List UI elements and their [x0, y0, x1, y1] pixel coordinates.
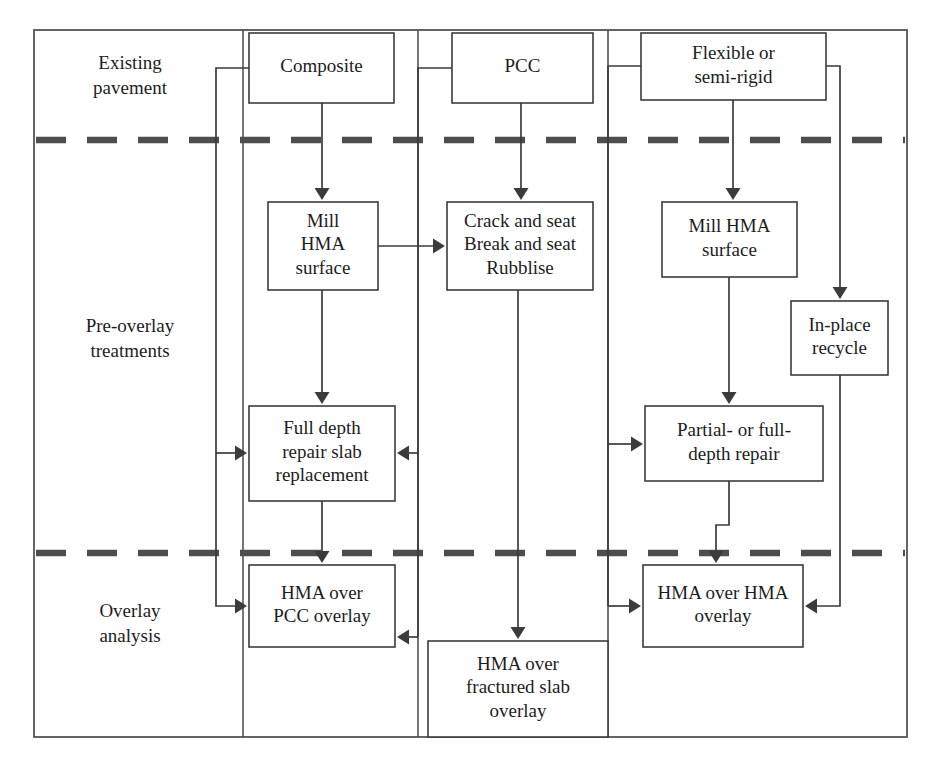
box-label-full-depth-repair-slab-replacement-line-0: Full depth — [283, 417, 361, 438]
connector-composite-branch-hmapcc — [216, 453, 243, 606]
process-box-mill-hma-surface-flexible[interactable]: Mill HMAsurface — [662, 202, 797, 277]
box-label-hma-over-hma-overlay-line-0: HMA over HMA — [658, 582, 789, 603]
box-label-partial-or-full-depth-repair-line-1: depth repair — [688, 443, 780, 464]
stage-label-pre-overlay-treatments-line-0: Pre-overlay — [86, 315, 175, 336]
arrowhead-fulldepth-to-hmapcc — [315, 551, 330, 563]
connector-flexible-left-down — [608, 66, 641, 606]
process-box-hma-over-hma-overlay[interactable]: HMA over HMAoverlay — [643, 565, 803, 647]
connector-partialrepair-to-hmahma — [716, 481, 729, 561]
stage-label-existing-pavement: Existingpavement — [93, 52, 168, 98]
process-box-mill-hma-surface-composite[interactable]: MillHMAsurface — [268, 202, 378, 290]
box-label-full-depth-repair-slab-replacement-line-1: repair slab — [282, 441, 362, 462]
box-label-crack-break-rubblise-line-1: Break and seat — [464, 233, 577, 254]
box-label-hma-over-hma-overlay-line-1: overlay — [695, 605, 752, 626]
arrowhead-composite-branch-hmapcc — [235, 599, 247, 614]
box-label-in-place-recycle-line-0: In-place — [808, 314, 870, 335]
box-label-flexible-or-semi-rigid-line-0: Flexible or — [692, 42, 776, 63]
arrowhead-composite-to-mill — [315, 188, 330, 200]
box-label-hma-over-fractured-slab-overlay-line-2: overlay — [490, 700, 547, 721]
process-box-full-depth-repair-slab-replacement[interactable]: Full depthrepair slabreplacement — [249, 406, 395, 501]
arrowhead-pcc-branch-hmapcc — [397, 630, 409, 645]
box-label-hma-over-fractured-slab-overlay-line-0: HMA over — [477, 653, 559, 674]
box-label-mill-hma-surface-flexible-line-1: surface — [702, 239, 757, 260]
box-label-pcc-line-0: PCC — [505, 55, 541, 76]
stage-label-overlay-analysis-line-0: Overlay — [99, 600, 161, 621]
process-box-hma-over-fractured-slab-overlay[interactable]: HMA overfractured slaboverlay — [428, 641, 608, 737]
arrowhead-pcc-branch-fulldepth — [397, 446, 409, 461]
arrowhead-partialrepair-to-hmahma — [709, 551, 724, 563]
box-label-composite-line-0: Composite — [280, 55, 362, 76]
box-label-full-depth-repair-slab-replacement-line-2: replacement — [276, 464, 370, 485]
flowchart-canvas: CompositePCCFlexible orsemi-rigidMillHMA… — [0, 0, 925, 770]
process-box-pcc[interactable]: PCC — [452, 33, 593, 103]
arrowhead-mill-flexible-to-partialrepair — [722, 392, 737, 404]
arrowhead-flexible-right-to-recycle — [833, 287, 848, 299]
connector-flexible-right-to-recycle — [826, 66, 840, 297]
stage-label-existing-pavement-line-1: pavement — [93, 77, 168, 98]
arrowhead-crackseat-to-fracturedslab — [511, 627, 526, 639]
arrowhead-pcc-to-crackseat — [514, 188, 529, 200]
box-label-crack-break-rubblise-line-0: Crack and seat — [464, 210, 577, 231]
box-label-flexible-or-semi-rigid-line-1: semi-rigid — [694, 66, 773, 87]
arrowhead-recycle-to-hmahma — [805, 599, 817, 614]
stage-label-pre-overlay-treatments-line-1: treatments — [90, 340, 169, 361]
box-label-mill-hma-surface-composite-line-0: Mill — [307, 210, 340, 231]
arrowhead-flexible-branch-partialrepair — [631, 437, 643, 452]
stage-label-overlay-analysis-line-1: analysis — [99, 625, 160, 646]
stage-label-overlay-analysis: Overlayanalysis — [99, 600, 161, 646]
box-label-partial-or-full-depth-repair-line-0: Partial- or full- — [677, 419, 791, 440]
box-label-mill-hma-surface-composite-line-1: HMA — [301, 233, 346, 254]
arrowhead-mill-to-crackseat — [433, 239, 445, 254]
box-label-hma-over-pcc-overlay-line-1: PCC overlay — [273, 605, 371, 626]
box-label-mill-hma-surface-composite-line-2: surface — [296, 257, 351, 278]
box-label-crack-break-rubblise-line-2: Rubblise — [486, 257, 554, 278]
connector-composite-left-to-fulldepth — [216, 68, 249, 453]
box-label-hma-over-fractured-slab-overlay-line-1: fractured slab — [466, 676, 570, 697]
process-box-crack-break-rubblise[interactable]: Crack and seatBreak and seatRubblise — [447, 202, 593, 290]
process-box-hma-over-pcc-overlay[interactable]: HMA overPCC overlay — [249, 565, 395, 647]
stage-label-existing-pavement-line-0: Existing — [98, 52, 162, 73]
process-box-partial-or-full-depth-repair[interactable]: Partial- or full-depth repair — [645, 406, 823, 481]
box-label-hma-over-pcc-overlay-line-0: HMA over — [281, 582, 363, 603]
arrowhead-flexible-branch-hmahma — [629, 599, 641, 614]
box-label-mill-hma-surface-flexible-line-0: Mill HMA — [689, 215, 771, 236]
process-box-flexible-or-semi-rigid[interactable]: Flexible orsemi-rigid — [641, 33, 826, 100]
stage-label-pre-overlay-treatments: Pre-overlaytreatments — [86, 315, 175, 361]
process-box-composite[interactable]: Composite — [249, 33, 394, 103]
arrowhead-composite-branch-fulldepth — [235, 446, 247, 461]
process-box-in-place-recycle[interactable]: In-placerecycle — [791, 301, 888, 375]
arrowhead-flexible-to-mill — [726, 188, 741, 200]
arrowhead-mill-to-fulldepth — [315, 392, 330, 404]
flowchart-diagram: CompositePCCFlexible orsemi-rigidMillHMA… — [0, 0, 925, 770]
box-label-in-place-recycle-line-1: recycle — [812, 337, 867, 358]
